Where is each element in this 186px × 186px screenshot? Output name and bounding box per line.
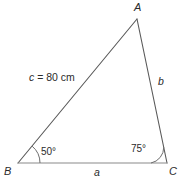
side-c-line (18, 19, 137, 163)
angle-arc-c (151, 147, 164, 163)
angle-label-c: 75° (131, 144, 146, 154)
angle-label-b: 50° (41, 147, 56, 157)
side-label-c: c = 80 cm (29, 72, 75, 83)
angle-arc-b (32, 146, 40, 163)
side-b-line (137, 19, 167, 163)
side-label-c-value: = 80 cm (34, 71, 75, 83)
triangle-figure: A B C a b c = 80 cm 50° 75° (0, 0, 186, 186)
side-label-a: a (94, 167, 100, 178)
vertex-label-b: B (4, 166, 11, 177)
side-label-b: b (158, 76, 164, 87)
vertex-label-a: A (134, 2, 141, 13)
triangle-drawing (0, 0, 186, 186)
vertex-label-c: C (169, 166, 177, 177)
